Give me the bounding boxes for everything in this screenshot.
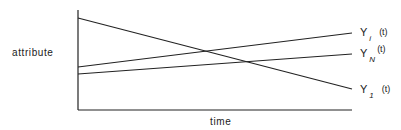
series-label-y1: Y1(t) xyxy=(360,83,390,95)
series-label-yi: Yi(t) xyxy=(360,26,388,38)
series-label-sub: 1 xyxy=(369,91,373,100)
series-label-arg: (t) xyxy=(377,44,386,54)
series-line-yn xyxy=(78,54,352,74)
series-line-y1 xyxy=(78,18,352,89)
series-label-arg: (t) xyxy=(382,84,391,94)
series-line-yi xyxy=(78,33,352,67)
series-label-yn: YN(t) xyxy=(360,47,386,59)
series-label-main: Y xyxy=(360,47,367,59)
series-label-main: Y xyxy=(360,83,367,95)
series-label-arg: (t) xyxy=(379,27,388,37)
y-axis-label: attribute xyxy=(12,47,54,58)
series-label-main: Y xyxy=(360,26,367,38)
series-label-sub: i xyxy=(369,34,371,43)
x-axis-label: time xyxy=(210,116,231,127)
line-chart xyxy=(0,0,401,130)
series-label-sub: N xyxy=(369,55,375,64)
